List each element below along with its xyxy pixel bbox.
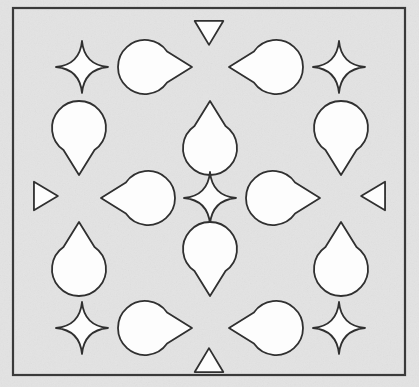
figure-root: top edge triangle pointing downtop-left … <box>0 0 419 387</box>
geometric-pattern-figure: top edge triangle pointing downtop-left … <box>0 0 419 387</box>
